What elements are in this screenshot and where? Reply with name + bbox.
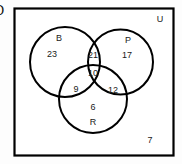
intersection-b-p-r-value: 10 xyxy=(88,68,98,78)
set-r-label: R xyxy=(90,117,97,127)
intersection-p-r-value: 12 xyxy=(108,85,118,95)
intersection-b-p-value: 21 xyxy=(88,50,98,60)
set-b-only-value: 23 xyxy=(47,49,57,59)
venn-diagram-figure: D U B 23 P 17 21 10 9 12 6 R 7 xyxy=(0,0,182,164)
set-p-only-value: 17 xyxy=(122,50,132,60)
intersection-b-r-value: 9 xyxy=(73,84,78,94)
set-r-only-value: 6 xyxy=(90,102,95,112)
set-p-label: P xyxy=(125,35,131,45)
figure-edge-marker: D xyxy=(0,1,8,21)
venn-diagram-canvas: U B 23 P 17 21 10 9 12 6 R 7 xyxy=(0,0,182,164)
set-b-label: B xyxy=(56,33,62,43)
outside-sets-value: 7 xyxy=(147,135,152,145)
universe-label: U xyxy=(157,14,164,24)
